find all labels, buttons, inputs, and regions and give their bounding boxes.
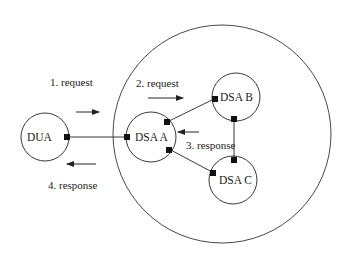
- port-icon: [210, 170, 216, 176]
- step-label-1: 1. request: [50, 76, 93, 88]
- link-dsa-a-dsa-b: [167, 99, 214, 122]
- node-dsa-c: DSA C: [209, 156, 257, 204]
- node-dua: DUA: [21, 113, 70, 161]
- port-icon: [231, 157, 237, 163]
- port-icon: [166, 147, 172, 153]
- node-label: DUA: [27, 131, 53, 143]
- port-icon: [212, 96, 218, 102]
- node-label: DSA B: [220, 91, 253, 103]
- port-icon: [164, 119, 170, 125]
- port-icon: [231, 116, 237, 122]
- port-icon: [124, 134, 130, 140]
- step-label-2: 2. request: [136, 77, 179, 89]
- node-label: DSA A: [135, 131, 169, 143]
- port-icon: [64, 134, 70, 140]
- link-dsa-a-dsa-c: [169, 149, 212, 172]
- node-dsa-b: DSA B: [212, 73, 260, 122]
- directory-diagram: DUA DSA A DSA B DSA C 1. request 2. requ…: [0, 0, 346, 260]
- node-label: DSA C: [219, 174, 252, 186]
- step-label-4: 4. response: [48, 179, 98, 191]
- node-dsa-a: DSA A: [124, 112, 176, 162]
- step-label-3: 3. response: [186, 139, 236, 151]
